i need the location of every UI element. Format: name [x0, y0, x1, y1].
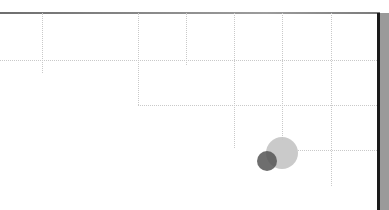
- grid-vertical-line: [138, 13, 139, 105]
- diagram-canvas: [0, 0, 389, 210]
- top-border: [0, 12, 380, 14]
- grid-vertical-line: [234, 13, 235, 148]
- grid-vertical-line: [282, 13, 283, 140]
- grid-vertical-line: [42, 13, 43, 73]
- small-circle: [257, 151, 277, 171]
- grid-vertical-line: [331, 13, 332, 186]
- right-edge-scrollbar[interactable]: [380, 13, 389, 210]
- grid-vertical-line: [186, 13, 187, 65]
- grid-horizontal-line: [298, 150, 377, 151]
- grid-horizontal-line: [138, 105, 377, 106]
- grid-horizontal-line: [0, 60, 377, 61]
